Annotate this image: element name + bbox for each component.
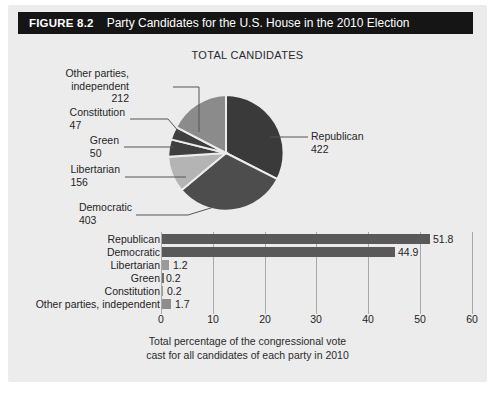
- axis-tick-20: 20: [250, 313, 280, 325]
- pie-chart-graphic-wrap: Other parties, independent 212 Constitut…: [8, 37, 487, 232]
- pie-label-green: Green 50: [90, 134, 119, 159]
- pie-label-other-value: 212: [65, 92, 129, 105]
- pie-label-other-line1: Other parties,: [65, 67, 129, 80]
- bar-label-green: Green: [131, 272, 160, 284]
- bar-rect-democratic: [162, 247, 395, 257]
- bar-rect-constitution: [162, 286, 163, 296]
- bar-value-green: 0.2: [166, 272, 181, 284]
- bar-value-republican: 51.8: [433, 233, 453, 245]
- bar-rect-green: [162, 273, 164, 283]
- pie-label-democratic-line1: Democratic: [79, 201, 132, 214]
- bar-label-democratic: Democratic: [107, 246, 160, 258]
- bar-value-constitution: 0.2: [167, 285, 182, 297]
- figure-title: Party Candidates for the U.S. House in t…: [107, 16, 410, 30]
- figure-number: FIGURE 8.2: [29, 17, 94, 29]
- axis-tick-40: 40: [353, 313, 383, 325]
- pie-slices: [168, 95, 283, 211]
- pie-label-other-parties: Other parties, independent 212: [65, 67, 129, 105]
- pie-label-constitution-value: 47: [70, 119, 125, 132]
- axis-tick-10: 10: [198, 313, 228, 325]
- pie-label-constitution: Constitution 47: [70, 106, 125, 131]
- pie-label-libertarian-value: 156: [70, 176, 120, 189]
- pie-label-democratic-value: 403: [79, 214, 132, 227]
- axis-tick-30: 30: [301, 313, 331, 325]
- bar-row-libertarian: Libertarian 1.2: [8, 260, 487, 271]
- bar-label-republican: Republican: [107, 233, 160, 245]
- pie-label-constitution-line1: Constitution: [70, 106, 125, 119]
- leader-line-democratic: [136, 207, 214, 215]
- bar-value-libertarian: 1.2: [173, 259, 188, 271]
- axis-tick-50: 50: [405, 313, 435, 325]
- figure-panel: FIGURE 8.2 Party Candidates for the U.S.…: [8, 5, 487, 382]
- bar-row-other-parties: Other parties, independent 1.7: [8, 299, 487, 310]
- leader-line-constitution: [130, 119, 180, 133]
- pie-label-republican-line1: Republican: [311, 130, 364, 143]
- figure-header-bar: FIGURE 8.2 Party Candidates for the U.S.…: [18, 12, 473, 34]
- bar-row-democratic: Democratic 44.9: [8, 247, 487, 258]
- pie-label-democratic: Democratic 403: [79, 201, 132, 226]
- axis-tick-60: 60: [457, 313, 487, 325]
- bar-caption-line2: cast for all candidates of each party in…: [8, 349, 487, 363]
- pie-chart-section: TOTAL CANDIDATES: [8, 37, 487, 232]
- pie-label-libertarian-line1: Libertarian: [70, 163, 120, 176]
- bar-row-constitution: Constitution 0.2: [8, 286, 487, 297]
- axis-tick-0: 0: [146, 313, 176, 325]
- pie-label-green-value: 50: [90, 147, 119, 160]
- bar-rect-libertarian: [162, 260, 169, 270]
- bar-row-republican: Republican 51.8: [8, 234, 487, 245]
- pie-label-republican-value: 422: [311, 143, 364, 156]
- pie-label-other-line2: independent: [65, 80, 129, 93]
- bar-value-democratic: 44.9: [398, 246, 418, 258]
- bar-value-other-parties: 1.7: [175, 298, 190, 310]
- pie-label-republican: Republican 422: [311, 130, 364, 155]
- bar-chart-caption: Total percentage of the congressional vo…: [8, 335, 487, 362]
- bar-chart-section: Republican 51.8 Democratic 44.9 Libertar…: [8, 232, 487, 327]
- bar-label-libertarian: Libertarian: [110, 259, 160, 271]
- bar-label-constitution: Constitution: [105, 285, 160, 297]
- bar-label-other-parties: Other parties, independent: [36, 298, 160, 310]
- bar-rect-other-parties: [162, 299, 171, 309]
- bar-rect-republican: [162, 234, 430, 244]
- bar-caption-line1: Total percentage of the congressional vo…: [8, 335, 487, 349]
- pie-label-green-line1: Green: [90, 134, 119, 147]
- pie-label-libertarian: Libertarian 156: [70, 163, 120, 188]
- bar-row-green: Green 0.2: [8, 273, 487, 284]
